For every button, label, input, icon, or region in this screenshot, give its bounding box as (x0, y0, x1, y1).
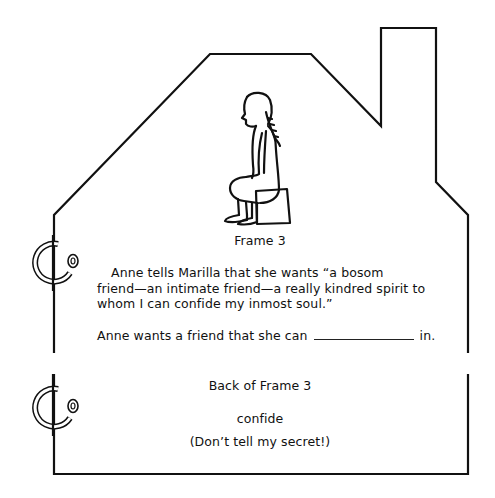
fill-in-prompt: Anne wants a friend that she can in. (97, 328, 435, 344)
seated-girl-illustration (225, 93, 290, 225)
back-note: (Don’t tell my secret!) (0, 434, 495, 450)
paragraph-line: friend—an intimate friend—a really kindr… (97, 281, 425, 297)
back-title: Back of Frame 3 (0, 378, 495, 394)
back-answer: confide (0, 411, 495, 427)
frame-caption: Frame 3 (0, 233, 495, 249)
prompt-text-before: Anne wants a friend that she can (97, 328, 308, 343)
paragraph-line: Anne tells Marilla that she wants “a bos… (111, 265, 384, 281)
prompt-text-after: in. (420, 328, 436, 343)
answer-blank (314, 328, 414, 340)
paragraph-line: whom I can confide my inmost soul.” (97, 296, 333, 312)
